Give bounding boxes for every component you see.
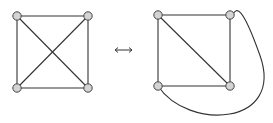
node-bottom-right <box>226 82 234 90</box>
node-top-right <box>226 11 234 19</box>
node-top-right <box>84 12 92 20</box>
graph-diagram <box>0 0 273 123</box>
node-bottom-right <box>84 84 92 92</box>
node-bottom-left <box>154 82 162 90</box>
node-bottom-left <box>13 84 21 92</box>
equivalence-arrow <box>115 48 132 53</box>
node-top-left <box>154 11 162 19</box>
node-top-left <box>13 12 21 20</box>
left-graph <box>13 12 92 92</box>
edge-bottom-left-top-right <box>158 11 264 115</box>
right-graph <box>154 11 264 115</box>
edge-top-left-bottom-right <box>158 15 230 86</box>
